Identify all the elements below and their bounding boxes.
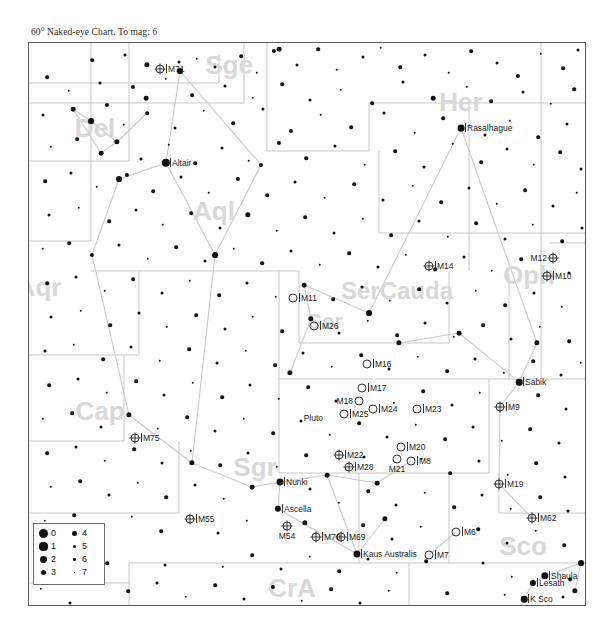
constellation-line xyxy=(280,475,327,482)
legend-row: 04 xyxy=(38,527,100,540)
constellation-line xyxy=(399,333,459,343)
legend-entry-mag-2: 2 xyxy=(38,555,69,564)
constellation-line xyxy=(73,109,91,121)
constellation-boundary-lines xyxy=(29,43,585,605)
constellation-line xyxy=(180,71,261,165)
legend-magnitude-label: 7 xyxy=(82,568,87,577)
legend-entry-mag-1: 1 xyxy=(38,542,69,551)
legend-row: 15 xyxy=(38,540,100,553)
legend-entry-mag-5: 5 xyxy=(69,542,100,551)
legend-magnitude-label: 5 xyxy=(82,542,87,551)
constellation-line xyxy=(519,343,537,382)
legend-star-symbol xyxy=(39,529,48,538)
legend-magnitude-label: 4 xyxy=(82,529,87,538)
legend-symbol-holder xyxy=(38,556,49,563)
constellation-line xyxy=(290,319,311,373)
legend-magnitude-label: 6 xyxy=(82,555,87,564)
constellation-line xyxy=(73,109,101,153)
constellation-line xyxy=(327,475,377,483)
legend-star-symbol xyxy=(73,545,77,549)
sky-chart-viewport[interactable]: SgeHerDelAqlSerCaudaOphAqrSerCapSgrScoCr… xyxy=(28,42,586,606)
constellation-line xyxy=(461,128,537,343)
legend-symbol-holder xyxy=(69,572,80,573)
constellation-line xyxy=(91,121,117,142)
legend-entry-mag-4: 4 xyxy=(69,529,100,538)
constellation-line xyxy=(278,509,357,554)
constellation-line xyxy=(117,113,147,142)
constellation-line xyxy=(278,482,280,509)
constellation-figure-lines xyxy=(73,71,581,599)
constellation-line xyxy=(524,583,533,599)
sky-vector-layer xyxy=(29,43,585,605)
legend-star-symbol xyxy=(41,570,47,576)
constellation-line xyxy=(166,163,215,255)
constellation-line xyxy=(575,563,581,591)
constellation-line xyxy=(545,563,581,576)
legend-row: 26 xyxy=(38,553,100,566)
constellation-line xyxy=(252,482,280,487)
constellation-line xyxy=(499,407,500,484)
constellation-line xyxy=(129,415,192,463)
page-title: 60° Naked-eye Chart. To mag: 6 xyxy=(31,27,157,37)
constellation-line xyxy=(327,475,357,554)
legend-star-symbol xyxy=(40,556,47,563)
constellation-line xyxy=(304,285,311,319)
constellation-line xyxy=(119,163,166,179)
legend-star-symbol xyxy=(73,558,75,560)
legend-star-symbol xyxy=(72,531,77,536)
legend-magnitude-label: 3 xyxy=(51,568,56,577)
legend-entry-mag-0: 0 xyxy=(38,529,69,538)
legend-magnitude-label: 2 xyxy=(51,555,56,564)
legend-entry-mag-7: 7 xyxy=(69,568,100,577)
legend-entry-mag-6: 6 xyxy=(69,555,100,564)
constellation-line xyxy=(357,519,385,554)
constellation-line xyxy=(369,128,461,313)
constellation-line xyxy=(377,461,411,483)
constellation-line xyxy=(429,532,456,555)
constellation-line xyxy=(500,382,519,407)
legend-row: 37 xyxy=(38,566,100,579)
legend-symbol-holder xyxy=(38,529,49,538)
constellation-line xyxy=(304,285,369,313)
constellation-line xyxy=(92,179,119,255)
constellation-line xyxy=(101,142,117,153)
legend-entry-mag-3: 3 xyxy=(38,568,69,577)
star-chart-page: 60° Naked-eye Chart. To mag: 6 SgeHerDel… xyxy=(0,0,609,640)
legend-symbol-holder xyxy=(69,545,80,549)
constellation-line xyxy=(192,463,252,487)
constellation-line xyxy=(215,165,261,255)
legend-symbol-holder xyxy=(69,531,80,536)
constellation-line xyxy=(533,576,545,583)
legend-magnitude-label: 1 xyxy=(51,542,56,551)
legend-symbol-holder xyxy=(38,542,49,550)
background-star xyxy=(474,605,477,606)
constellation-line xyxy=(192,255,215,463)
constellation-line xyxy=(92,255,129,415)
legend-star-symbol xyxy=(39,542,47,550)
legend-symbol-holder xyxy=(38,570,49,576)
legend-star-symbol xyxy=(74,572,75,573)
constellation-line xyxy=(459,333,519,382)
legend-magnitude-label: 0 xyxy=(51,529,56,538)
magnitude-legend: 04152637 xyxy=(33,523,105,585)
constellation-line xyxy=(166,71,180,163)
legend-symbol-holder xyxy=(69,558,80,560)
